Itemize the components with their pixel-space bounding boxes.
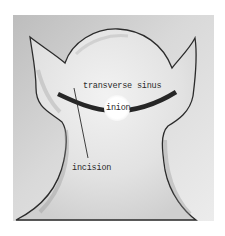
head-drawing — [0, 0, 225, 236]
incision-label: incision — [72, 164, 111, 173]
transverse-sinus-label: transverse sinus — [83, 82, 161, 91]
inion-label: inion — [106, 104, 131, 113]
anatomical-illustration: transverse sinus inion incision — [0, 0, 225, 236]
